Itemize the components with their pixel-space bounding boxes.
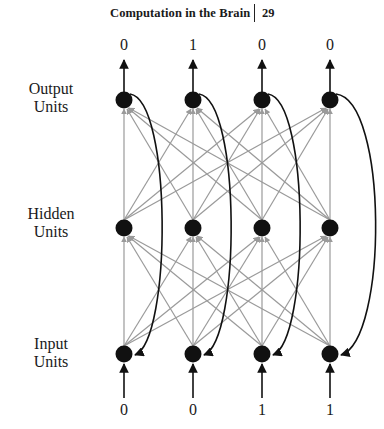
input-arrows xyxy=(124,364,330,398)
input-node-3 xyxy=(254,346,271,363)
output-node-2 xyxy=(185,92,202,109)
input-node-2 xyxy=(185,346,202,363)
output-node-4 xyxy=(322,92,339,109)
hidden-node-2 xyxy=(185,220,202,237)
hidden-node-3 xyxy=(254,220,271,237)
hidden-node-4 xyxy=(322,220,339,237)
hidden-node-1 xyxy=(116,220,133,237)
output-arrows xyxy=(124,60,330,92)
output-node-1 xyxy=(116,92,133,109)
network-diagram xyxy=(0,0,384,429)
input-node-1 xyxy=(116,346,133,363)
input-nodes xyxy=(116,346,339,363)
recurrent-edges xyxy=(130,94,376,355)
output-node-3 xyxy=(254,92,271,109)
output-nodes xyxy=(116,92,339,109)
hidden-nodes xyxy=(116,220,339,237)
input-node-4 xyxy=(322,346,339,363)
